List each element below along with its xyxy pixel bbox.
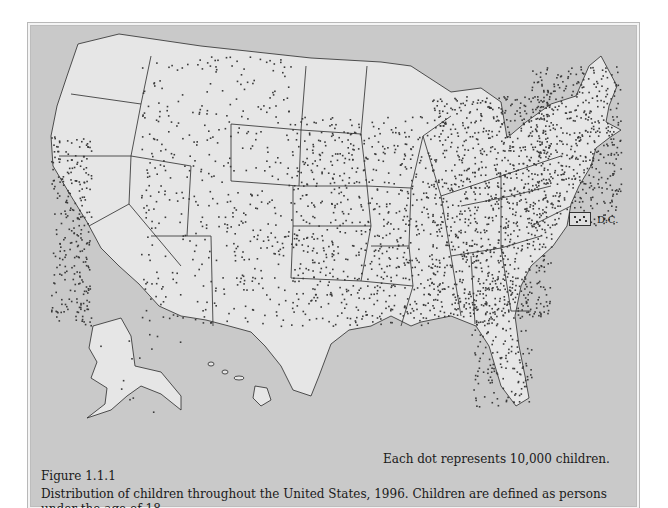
- dc-inset-legend: D.C.: [569, 212, 618, 226]
- dc-inset-box: [569, 212, 591, 226]
- alaska-inset: [87, 318, 181, 418]
- hawaii-inset: [208, 362, 271, 406]
- figure-caption: Distribution of children throughout the …: [41, 487, 621, 508]
- figure-label: Figure 1.1.1: [41, 469, 116, 483]
- figure-frame: D.C. Each dot represents 10,000 children…: [30, 25, 637, 507]
- dc-label: D.C.: [597, 214, 618, 225]
- us-dot-density-map: [31, 26, 636, 441]
- dot-value-note: Each dot represents 10,000 children.: [383, 452, 610, 466]
